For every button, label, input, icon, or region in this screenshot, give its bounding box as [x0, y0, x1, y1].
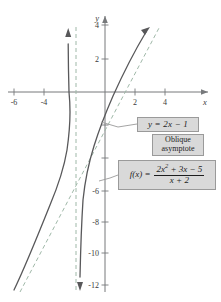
x-tick-label: -4: [41, 98, 48, 107]
oblique-asymptote-callout: Oblique asymptote: [152, 134, 204, 156]
y-tick-label: -6: [92, 187, 99, 196]
numerator-term-a: 2x: [156, 164, 165, 174]
y-tick-label: -10: [88, 249, 99, 258]
numerator-term-b: + 3x − 5: [168, 164, 202, 174]
y-axis-label: y: [94, 13, 99, 23]
x-axis-label: x: [202, 97, 207, 107]
leader-line-function: [99, 175, 118, 181]
oblique-asymptote-line2: asymptote: [162, 145, 195, 154]
y-axis: 4 2 -6 -8 -10 -12 y: [88, 13, 108, 292]
y-tick-label: -12: [88, 281, 99, 290]
leader-line-asymptote: [101, 122, 137, 127]
function-equation-lhs: f(x) =: [130, 170, 151, 180]
y-tick-label: 2: [95, 55, 99, 64]
function-numerator: 2x2 + 3x − 5: [154, 165, 204, 175]
x-tick-label: 4: [163, 98, 167, 107]
x-tick-label: 2: [133, 98, 137, 107]
function-fraction: 2x2 + 3x − 5 x + 2: [154, 165, 204, 186]
function-curve-left-branch: [14, 28, 71, 290]
asymptote-equation-text: y = 2x − 1: [148, 120, 188, 130]
x-axis: -6 -4 2 4 x: [8, 89, 208, 108]
graph-figure: -6 -4 2 4 x 4 2 -6 -8 -10 -12 y: [0, 0, 221, 302]
function-equation: f(x) = 2x2 + 3x − 5 x + 2: [130, 165, 205, 186]
function-equation-callout: f(x) = 2x2 + 3x − 5 x + 2: [118, 160, 216, 190]
y-tick-label: -8: [92, 218, 99, 227]
asymptote-equation-callout: y = 2x − 1: [137, 117, 199, 132]
x-tick-label: -6: [11, 98, 18, 107]
function-denominator: x + 2: [154, 175, 204, 186]
